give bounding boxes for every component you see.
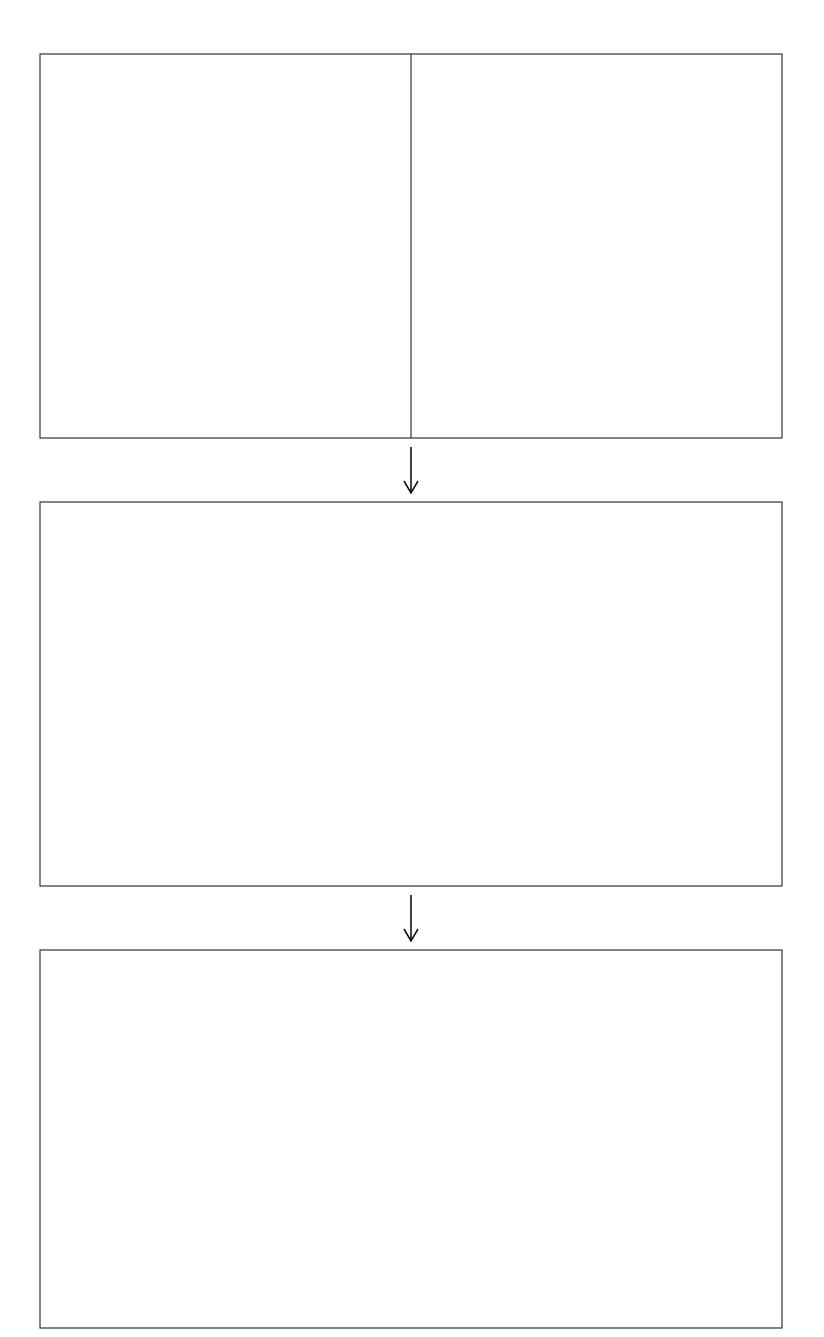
mixing-arrow-icon — [404, 447, 418, 493]
panel-after-reacting — [40, 950, 782, 1328]
panel-after-mixing — [40, 502, 782, 886]
hybridization-diagram — [0, 0, 824, 1337]
panel-box-middle — [40, 502, 782, 886]
panel-box-bottom — [40, 950, 782, 1328]
panel-before-mixing — [40, 54, 782, 438]
reacting-arrow-icon — [404, 895, 418, 941]
